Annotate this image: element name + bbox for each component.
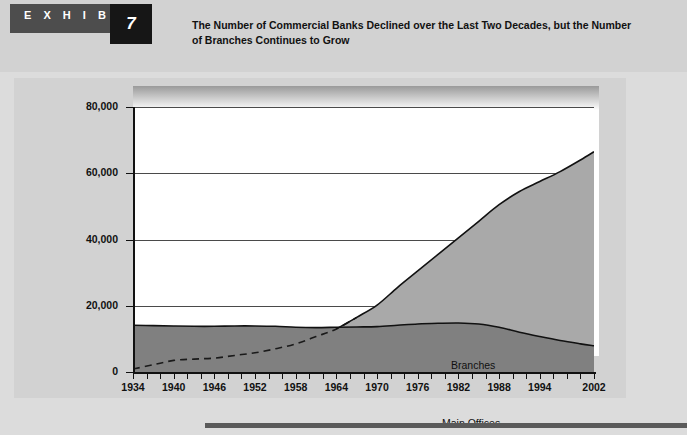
x-axis-tick [187, 374, 188, 379]
x-axis-tick [241, 374, 242, 379]
x-axis-tick [309, 374, 310, 379]
x-axis-label: 1964 [316, 381, 356, 393]
x-axis-label: 1988 [479, 381, 519, 393]
x-axis-label: 1982 [438, 381, 478, 393]
x-axis-tick [540, 374, 541, 379]
exhibit-number: 7 [110, 4, 152, 44]
x-axis-tick [526, 374, 527, 379]
x-axis-tick [201, 374, 202, 379]
x-axis-tick [228, 374, 229, 379]
x-axis-tick [458, 374, 459, 379]
x-axis-tick [160, 374, 161, 379]
x-axis-tick [350, 374, 351, 379]
x-axis-tick [445, 374, 446, 379]
x-axis-label: 1994 [520, 381, 560, 393]
x-axis-tick [499, 374, 500, 379]
x-axis-tick [174, 374, 175, 379]
x-axis-tick [580, 374, 581, 379]
x-axis-label: 1934 [113, 381, 153, 393]
x-axis-tick [377, 374, 378, 379]
x-axis-tick [282, 374, 283, 379]
y-axis-tick [126, 173, 133, 174]
y-axis-tick [126, 240, 133, 241]
x-axis-tick [594, 374, 595, 379]
x-axis-tick [418, 374, 419, 379]
x-axis-label: 1976 [398, 381, 438, 393]
x-axis-tick [431, 374, 432, 379]
x-axis-tick [391, 374, 392, 379]
exhibit-number-box: 7 [110, 4, 152, 44]
x-axis-tick [553, 374, 554, 379]
y-axis-label: 80,000 [52, 100, 118, 112]
x-axis-tick [567, 374, 568, 379]
page-title: The Number of Commercial Banks Declined … [192, 18, 642, 48]
footer-bar [205, 423, 687, 428]
y-axis-label: 20,000 [52, 299, 118, 311]
series-svg [133, 107, 594, 373]
y-axis-label: 40,000 [52, 233, 118, 245]
x-axis-tick [323, 374, 324, 379]
x-axis-tick [296, 374, 297, 379]
y-axis-tick [126, 306, 133, 307]
x-axis-label: 1940 [154, 381, 194, 393]
y-axis-label: 60,000 [52, 166, 118, 178]
x-axis-tick [486, 374, 487, 379]
y-axis-label: 0 [52, 365, 118, 377]
x-axis-label: 1952 [235, 381, 275, 393]
chart-panel: 020,00040,00060,00080,000 19341940194619… [14, 78, 626, 398]
x-axis-tick [255, 374, 256, 379]
x-axis-label: 1946 [194, 381, 234, 393]
series-label-branches: Branches [451, 359, 495, 371]
x-axis-label: 1970 [357, 381, 397, 393]
y-axis-line [133, 107, 135, 373]
x-axis-tick [269, 374, 270, 379]
x-axis-tick [364, 374, 365, 379]
y-axis-tick [126, 107, 133, 108]
x-axis-label: 2002 [574, 381, 614, 393]
x-axis-tick [336, 374, 337, 379]
x-axis-tick [513, 374, 514, 379]
x-axis-tick [404, 374, 405, 379]
x-axis-tick [472, 374, 473, 379]
x-axis-tick [214, 374, 215, 379]
x-axis-label: 1958 [276, 381, 316, 393]
x-axis-tick [133, 374, 134, 379]
y-axis-tick [126, 372, 133, 373]
x-axis-tick [147, 374, 148, 379]
